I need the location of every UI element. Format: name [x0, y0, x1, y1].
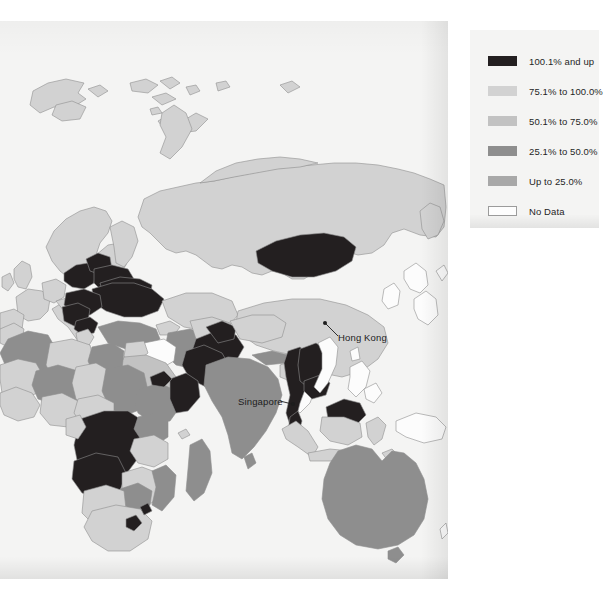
legend-label: 75.1% to 100.0% [529, 86, 603, 97]
legend-swatch-icon [488, 206, 517, 216]
map-legend: 100.1% and up 75.1% to 100.0% 50.1% to 7… [470, 30, 599, 228]
legend-swatch-icon [488, 116, 517, 126]
legend-row[interactable]: 50.1% to 75.0% [470, 106, 599, 136]
legend-swatch-icon [488, 86, 517, 96]
map-label-hong-kong: Hong Kong [338, 332, 387, 343]
legend-row[interactable]: 100.1% and up [470, 46, 599, 76]
legend-label: No Data [529, 206, 565, 217]
legend-swatch-icon [488, 176, 517, 186]
map-label-singapore: Singapore [238, 396, 283, 407]
legend-swatch-icon [488, 146, 517, 156]
legend-row[interactable]: 25.1% to 50.0% [470, 136, 599, 166]
legend-row[interactable]: 75.1% to 100.0% [470, 76, 599, 106]
world-map-graphic: .b1 { fill:#231f20; } /* 100.1% and up *… [0, 21, 448, 579]
legend-label: 25.1% to 50.0% [529, 146, 597, 157]
legend-row[interactable]: No Data [470, 196, 599, 226]
legend-label: 50.1% to 75.0% [529, 116, 597, 127]
legend-row[interactable]: Up to 25.0% [470, 166, 599, 196]
legend-swatch-icon [488, 56, 517, 66]
map-panel: .b1 { fill:#231f20; } /* 100.1% and up *… [0, 21, 448, 579]
legend-label: Up to 25.0% [529, 176, 582, 187]
legend-label: 100.1% and up [529, 56, 594, 67]
